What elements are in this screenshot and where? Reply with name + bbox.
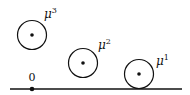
measure-mu2: μ2 [69,37,111,78]
measure-mu3: μ3 [18,6,57,50]
mu2-label: μ2 [98,37,111,52]
measure-mu1: μ1 [125,53,169,89]
mu1-label: μ1 [156,53,169,68]
origin-dot [30,87,35,92]
origin-label: 0 [29,71,36,84]
mu1-center-dot [137,72,141,76]
mu2-center-dot [81,61,85,65]
measures-diagram: 0 μ3 μ2 μ1 [0,0,190,95]
mu3-label: μ3 [44,6,57,21]
mu3-center-dot [30,33,34,37]
